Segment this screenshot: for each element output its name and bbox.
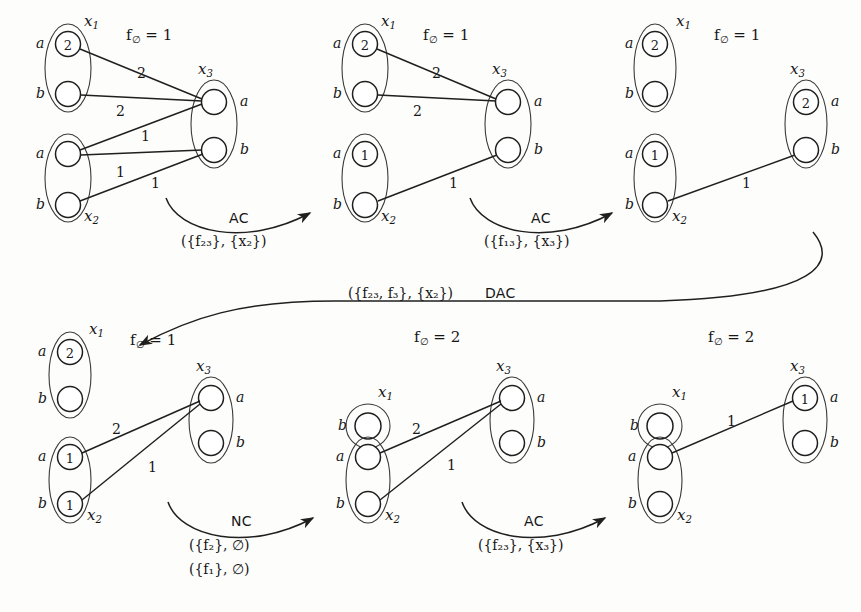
edge-weight-x1a-x3a: 2 bbox=[137, 66, 146, 80]
edge-x1b-x3a bbox=[378, 95, 496, 101]
transition-op-t3: DAC bbox=[485, 286, 516, 300]
node-value-x1-a: 2 bbox=[57, 346, 83, 361]
port-label-x1-b: b bbox=[630, 418, 639, 432]
port-label-x1-b: b bbox=[338, 418, 347, 432]
var-label-x2: x2 bbox=[84, 209, 99, 226]
edge-x2b-x3a bbox=[380, 404, 501, 500]
edge-weight-x2a-x3b: 1 bbox=[116, 165, 125, 179]
edge-weight-x2a-x3a: 1 bbox=[141, 129, 150, 143]
port-label-x2-a: a bbox=[38, 449, 46, 463]
port-label-x3-a: a bbox=[236, 390, 244, 404]
edge-weight-x2a-x3a: 1 bbox=[727, 414, 736, 428]
transition-op-t4: NC bbox=[231, 514, 252, 528]
edge-weight-x2a-x3a: 2 bbox=[112, 422, 121, 436]
var-label-x1: x1 bbox=[84, 14, 99, 31]
transition-arg-t4-line1: ({f₂}, ∅) bbox=[189, 538, 249, 552]
node-value-x3-a: 1 bbox=[792, 392, 818, 407]
var-label-x3: x3 bbox=[496, 359, 511, 376]
transition-arg-t5: ({f₂₃}, {x₃}) bbox=[478, 538, 563, 552]
port-label-x2-b: b bbox=[625, 197, 634, 211]
edge-x2b-x3b bbox=[668, 155, 795, 201]
port-label-x3-a: a bbox=[240, 94, 248, 108]
cost-label-d2: f∅ = 1 bbox=[423, 28, 469, 45]
var-label-x2: x2 bbox=[672, 209, 687, 226]
transition-arg-t2: ({f₁₃}, {x₃}) bbox=[484, 234, 569, 248]
var-label-x2: x2 bbox=[385, 508, 400, 525]
node-x3-a bbox=[202, 90, 227, 115]
edge-weight-x2b-x3a: 1 bbox=[148, 460, 157, 474]
port-label-x1-a: a bbox=[625, 36, 633, 50]
node-x3-a bbox=[496, 90, 521, 115]
port-label-x2-a: a bbox=[336, 449, 344, 463]
transition-arg-t4-line2: ({f₁}, ∅) bbox=[189, 562, 249, 576]
node-value-x2-a: 1 bbox=[642, 148, 668, 163]
node-x2-a bbox=[648, 445, 673, 470]
port-label-x3-a: a bbox=[830, 390, 838, 404]
node-x3-b bbox=[793, 431, 818, 456]
diagram-d5-graphics bbox=[346, 377, 534, 523]
node-x2-b bbox=[648, 492, 673, 517]
transition-arg-t1: ({f₂₃}, {x₂}) bbox=[181, 234, 266, 248]
edge-x2a-x3b bbox=[81, 150, 202, 155]
node-x2-b bbox=[356, 492, 381, 517]
port-label-x1-b: b bbox=[38, 391, 47, 405]
port-label-x3-a: a bbox=[831, 94, 839, 108]
edge-weight-x2b-x3b: 1 bbox=[449, 176, 458, 190]
node-x2-b bbox=[353, 193, 378, 218]
edge-x2b-x3b bbox=[378, 155, 497, 201]
node-value-x2-a: 1 bbox=[57, 451, 83, 466]
transition-arg-t3: ({f₂₃, f₃}, {x₂}) bbox=[348, 286, 453, 300]
node-x1-b bbox=[353, 82, 378, 107]
diagram-d3-graphics bbox=[634, 24, 827, 222]
var-label-x3: x3 bbox=[198, 62, 213, 79]
var-label-x1: x1 bbox=[676, 14, 691, 31]
port-label-x1-b: b bbox=[625, 86, 634, 100]
port-label-x1-b: b bbox=[36, 86, 45, 100]
port-label-x2-a: a bbox=[628, 449, 636, 463]
node-x3-b bbox=[199, 431, 224, 456]
figure-svg bbox=[0, 0, 861, 612]
edge-x2b-x3a bbox=[82, 404, 200, 500]
port-label-x3-b: b bbox=[831, 142, 840, 156]
edge-x2a-x3a bbox=[380, 401, 501, 453]
edge-x2a-x3a bbox=[82, 401, 200, 453]
edge-x1b-x3a bbox=[81, 95, 202, 101]
node-value-x2-a: 1 bbox=[352, 148, 378, 163]
port-label-x1-a: a bbox=[333, 36, 341, 50]
edge-weight-x1a-x3a: 2 bbox=[432, 66, 441, 80]
node-x3-b bbox=[500, 431, 525, 456]
port-label-x2-b: b bbox=[36, 197, 45, 211]
var-label-x3: x3 bbox=[492, 62, 507, 79]
node-x1-b bbox=[643, 82, 668, 107]
node-x1-b bbox=[56, 82, 81, 107]
edge-weight-x2b-x3a: 1 bbox=[447, 458, 456, 472]
node-x1-b bbox=[58, 387, 83, 412]
node-value-x2-b: 1 bbox=[57, 498, 83, 513]
port-label-x2-a: a bbox=[333, 146, 341, 160]
port-label-x3-b: b bbox=[240, 142, 249, 156]
node-value-x1-a: 2 bbox=[352, 38, 378, 53]
node-x3-b bbox=[202, 138, 227, 163]
var-label-x3: x3 bbox=[790, 359, 805, 376]
var-label-x1: x1 bbox=[378, 385, 393, 402]
port-label-x3-a: a bbox=[537, 390, 545, 404]
port-label-x2-b: b bbox=[333, 197, 342, 211]
node-x3-b bbox=[794, 138, 819, 163]
edge-weight-x2a-x3a: 2 bbox=[412, 422, 421, 436]
node-x2-b bbox=[56, 193, 81, 218]
port-label-x1-a: a bbox=[36, 36, 44, 50]
node-value-x1-a: 2 bbox=[55, 38, 81, 53]
node-value-x1-a: 2 bbox=[642, 38, 668, 53]
transition-op-t1: AC bbox=[229, 211, 249, 225]
cost-label-d4: f∅ = 1 bbox=[130, 333, 176, 350]
node-x2-a bbox=[356, 445, 381, 470]
cost-label-d3: f∅ = 1 bbox=[714, 28, 760, 45]
var-label-x2: x2 bbox=[677, 508, 692, 525]
diagram-d1-graphics bbox=[45, 24, 237, 222]
var-label-x2: x2 bbox=[87, 508, 102, 525]
node-x3-a bbox=[500, 386, 525, 411]
edge-weight-x2b-x3b: 1 bbox=[151, 176, 160, 190]
var-label-x1: x1 bbox=[672, 385, 687, 402]
var-label-x3: x3 bbox=[196, 359, 211, 376]
var-label-x1: x1 bbox=[89, 322, 104, 339]
